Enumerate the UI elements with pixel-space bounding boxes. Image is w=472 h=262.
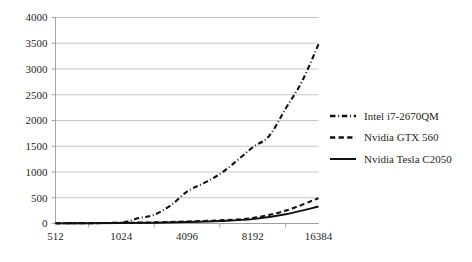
x-tick-label-1024: 1024 (110, 230, 133, 242)
legend-label-2: Nvidia Tesla C2050 (364, 153, 452, 165)
x-tick-label-8192: 8192 (242, 230, 264, 242)
data-series (56, 44, 319, 223)
y-tick-label-500: 500 (31, 192, 48, 204)
x-tick-label-512: 512 (47, 230, 64, 242)
y-axis-tick-labels: 05001000150020002500300035004000 (26, 11, 49, 229)
y-tick-label-4000: 4000 (26, 11, 49, 23)
chart-legend: Intel i7-2670QMNvidia GTX 560Nvidia Tesl… (330, 110, 452, 165)
x-tick-label-4096: 4096 (176, 230, 199, 242)
y-tick-label-2000: 2000 (26, 114, 49, 126)
y-tick-label-1000: 1000 (26, 166, 49, 178)
legend-label-0: Intel i7-2670QM (364, 110, 439, 122)
chart-container: 05001000150020002500300035004000 5121024… (0, 0, 472, 262)
y-tick-label-0: 0 (42, 217, 48, 229)
y-tick-label-3000: 3000 (26, 63, 49, 75)
y-tick-label-3500: 3500 (26, 37, 49, 49)
y-tick-label-2500: 2500 (26, 89, 49, 101)
series-line-1 (56, 198, 319, 223)
series-line-0 (56, 44, 319, 223)
y-tick-label-1500: 1500 (26, 140, 49, 152)
x-tick-label-16384: 16384 (305, 230, 333, 242)
x-axis-tick-marks (88, 224, 285, 228)
x-axis-tick-labels: 51210244096819216384 (47, 230, 333, 242)
y-axis-tick-marks (52, 18, 56, 224)
legend-label-1: Nvidia GTX 560 (364, 131, 439, 143)
line-chart: 05001000150020002500300035004000 5121024… (0, 0, 472, 262)
